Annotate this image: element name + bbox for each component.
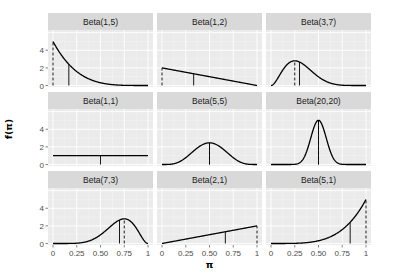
y-tick-label: 0 xyxy=(40,240,45,249)
facet-panel: Beta(3,7) xyxy=(266,13,371,87)
x-tick-label: 0.25 xyxy=(287,249,303,258)
y-tick-label: 4 xyxy=(40,125,45,134)
x-tick-label: 0.50 xyxy=(93,249,109,258)
facet-label: Beta(3,7) xyxy=(301,17,336,27)
y-axis-title: f(π) xyxy=(3,119,14,139)
x-tick-label: 0 xyxy=(269,249,274,258)
x-tick-label: 1 xyxy=(255,249,260,258)
facet-label: Beta(1,1) xyxy=(83,96,118,106)
x-tick-label: 0.75 xyxy=(334,249,350,258)
x-axis-title: π xyxy=(206,259,214,270)
facet-panel: Beta(20,20) xyxy=(266,92,371,166)
facet-panel: Beta(1,2) xyxy=(157,13,262,87)
x-tick-label: 0.25 xyxy=(69,249,85,258)
facet-panel: Beta(1,5)024 xyxy=(40,13,153,91)
facet-label: Beta(20,20) xyxy=(296,96,341,106)
facet-label: Beta(1,2) xyxy=(192,17,227,27)
facet-panel: Beta(1,1)024 xyxy=(40,92,153,170)
y-tick-label: 2 xyxy=(40,64,45,73)
facet-panel: Beta(7,3)02400.250.500.751 xyxy=(40,171,153,258)
beta-facet-plot: Beta(1,5)024Beta(1,2)Beta(3,7)Beta(1,1)0… xyxy=(0,0,408,278)
x-tick-label: 0.75 xyxy=(225,249,241,258)
x-tick-label: 0.75 xyxy=(116,249,132,258)
x-tick-label: 1 xyxy=(364,249,369,258)
facet-panel: Beta(5,1)00.250.500.751 xyxy=(266,171,371,258)
y-tick-label: 2 xyxy=(40,143,45,152)
facet-label: Beta(2,1) xyxy=(192,175,227,185)
y-tick-label: 2 xyxy=(40,222,45,231)
x-tick-label: 0.50 xyxy=(202,249,218,258)
facet-label: Beta(5,1) xyxy=(301,175,336,185)
facet-panel: Beta(2,1)00.250.500.751 xyxy=(157,171,262,258)
y-tick-label: 4 xyxy=(40,204,45,213)
facet-panel: Beta(5,5) xyxy=(157,92,262,166)
x-tick-label: 0.50 xyxy=(311,249,327,258)
y-tick-label: 4 xyxy=(40,46,45,55)
y-tick-label: 0 xyxy=(40,161,45,170)
facet-label: Beta(5,5) xyxy=(192,96,227,106)
facet-label: Beta(7,3) xyxy=(83,175,118,185)
facet-label: Beta(1,5) xyxy=(83,17,118,27)
y-tick-label: 0 xyxy=(40,82,45,91)
x-tick-label: 1 xyxy=(146,249,151,258)
x-tick-label: 0.25 xyxy=(178,249,194,258)
x-tick-label: 0 xyxy=(160,249,165,258)
x-tick-label: 0 xyxy=(51,249,56,258)
